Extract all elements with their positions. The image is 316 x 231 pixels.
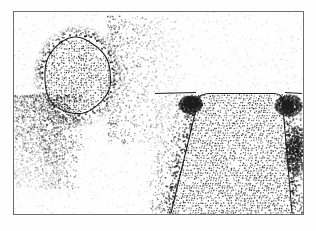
illustration-figure: Stippled line drawing: plan and section … [0, 0, 316, 231]
stipple-drawing-canvas [0, 0, 316, 231]
